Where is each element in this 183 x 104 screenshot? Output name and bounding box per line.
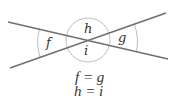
label-h: h [84,21,92,36]
equation-2: h = i [74,83,103,99]
label-i: i [84,43,88,58]
angle-arc-g [134,24,137,52]
label-g: g [118,30,126,45]
angle-arc-f [38,29,40,58]
label-f: f [45,35,53,50]
vertical-angles-diagram: h i f g f = g h = i [0,0,183,104]
eq2-text: h = i [74,83,103,99]
